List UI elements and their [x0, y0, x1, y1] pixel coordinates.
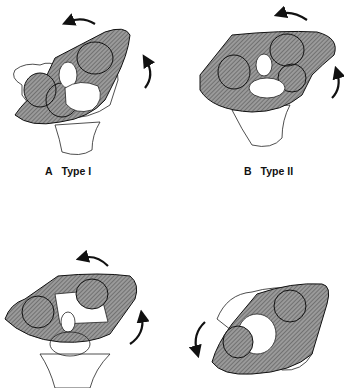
rotation-arrow-icon: [332, 72, 339, 98]
rotation-arrow-icon: [280, 13, 307, 20]
vertebra-drawing-c: [0, 194, 172, 388]
panel-label-b: BType II: [244, 165, 293, 177]
vertebra-drawing-a: [0, 0, 172, 160]
panel-d: [172, 194, 344, 388]
rotation-arrow-icon: [145, 60, 150, 88]
rotation-arrow-icon: [130, 316, 143, 344]
panel-a-type-1: AType I: [0, 0, 172, 194]
vertebra-drawing-b: [172, 0, 344, 160]
rotation-arrow-icon: [196, 322, 205, 352]
panel-b-type-2: BType II: [172, 0, 344, 194]
panel-c: [0, 194, 172, 388]
rotation-arrow-icon: [82, 257, 108, 266]
rotation-arrow-icon: [68, 19, 95, 24]
vertebra-drawing-d: [172, 194, 344, 388]
panel-label-a: AType I: [45, 165, 91, 177]
